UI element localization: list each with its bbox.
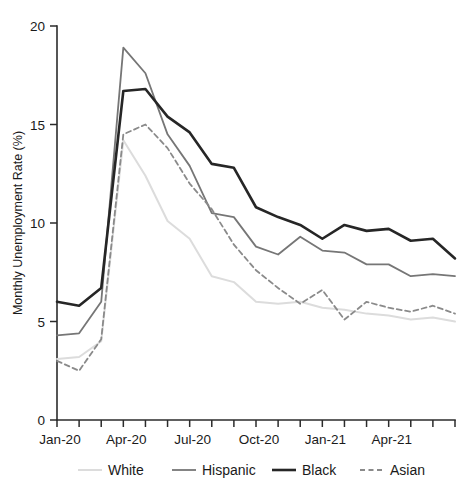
legend-label-hispanic[interactable]: Hispanic: [202, 462, 256, 478]
y-tick-group: 05101520: [30, 19, 57, 428]
chart-canvas: 05101520 Jan-20Apr-20Jul-20Oct-20Jan-21A…: [0, 0, 472, 488]
series-group: [57, 48, 455, 371]
x-tick-label: Jul-20: [174, 432, 211, 447]
x-tick-label-group: Jan-20Apr-20Jul-20Oct-20Jan-21Apr-21: [39, 432, 412, 447]
y-tick-label: 0: [37, 413, 45, 428]
legend-label-asian[interactable]: Asian: [390, 462, 425, 478]
y-tick-label: 15: [30, 118, 45, 133]
x-tick-label: Oct-20: [239, 432, 280, 447]
y-tick-label: 20: [30, 19, 45, 34]
x-axis-group: Jan-20Apr-20Jul-20Oct-20Jan-21Apr-21: [39, 420, 455, 447]
x-tick-label: Jan-21: [305, 432, 346, 447]
y-tick-label: 5: [37, 315, 45, 330]
y-axis-group: 05101520: [30, 19, 57, 428]
legend-label-white[interactable]: White: [108, 462, 144, 478]
y-axis-title-text: Monthly Unemployment Rate (%): [11, 131, 25, 315]
x-tick-label: Apr-20: [106, 432, 147, 447]
x-tick-label: Apr-21: [371, 432, 412, 447]
x-tick-group: [57, 420, 455, 427]
y-tick-label: 10: [30, 216, 45, 231]
x-tick-label: Jan-20: [39, 432, 80, 447]
unemployment-rate-chart: 05101520 Jan-20Apr-20Jul-20Oct-20Jan-21A…: [0, 0, 472, 488]
series-line-white: [57, 140, 455, 359]
chart-legend: WhiteHispanicBlackAsian: [78, 462, 425, 478]
legend-label-black[interactable]: Black: [302, 462, 337, 478]
